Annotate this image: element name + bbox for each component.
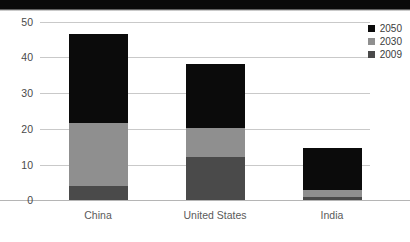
legend-item-2030[interactable]: 2030 bbox=[368, 36, 402, 47]
y-tick-label-20: 20 bbox=[0, 124, 33, 134]
y-tick-label-0: 0 bbox=[0, 195, 33, 205]
y-tick-label-10: 10 bbox=[0, 160, 33, 170]
bar-india[interactable] bbox=[303, 148, 362, 200]
x-axis-label-china: China bbox=[38, 209, 158, 221]
legend-label-2050: 2050 bbox=[380, 24, 402, 34]
legend-swatch-2009-icon bbox=[368, 51, 375, 58]
bar-segment-india-2009[interactable] bbox=[303, 197, 362, 200]
plot-area: 50 40 30 20 10 0 China United States Ind… bbox=[0, 9, 410, 242]
scan-artifact-band bbox=[0, 0, 410, 9]
bar-segment-united-states-2030[interactable] bbox=[186, 128, 245, 157]
legend-label-2009: 2009 bbox=[380, 50, 402, 60]
bar-segment-india-2030[interactable] bbox=[303, 190, 362, 197]
legend-swatch-2050-icon bbox=[368, 25, 375, 32]
x-axis-label-united-states: United States bbox=[155, 209, 275, 221]
bar-segment-india-2050[interactable] bbox=[303, 148, 362, 190]
bar-segment-china-2030[interactable] bbox=[69, 123, 128, 186]
bar-segment-china-2009[interactable] bbox=[69, 186, 128, 200]
bar-segment-united-states-2009[interactable] bbox=[186, 157, 245, 200]
stacked-bar-chart: 50 40 30 20 10 0 China United States Ind… bbox=[0, 0, 410, 242]
bar-china[interactable] bbox=[69, 34, 128, 200]
legend-item-2009[interactable]: 2009 bbox=[368, 49, 402, 60]
y-tick-label-40: 40 bbox=[0, 52, 33, 62]
bar-united-states[interactable] bbox=[186, 64, 245, 200]
legend-item-2050[interactable]: 2050 bbox=[368, 23, 402, 34]
chart-legend: 2050 2030 2009 bbox=[368, 23, 402, 62]
gridline-50 bbox=[40, 22, 370, 23]
x-axis-line bbox=[0, 200, 410, 201]
bar-segment-china-2050[interactable] bbox=[69, 34, 128, 123]
legend-swatch-2030-icon bbox=[368, 38, 375, 45]
y-tick-label-30: 30 bbox=[0, 88, 33, 98]
legend-label-2030: 2030 bbox=[380, 37, 402, 47]
x-axis-label-india: India bbox=[272, 209, 392, 221]
bar-segment-united-states-2050[interactable] bbox=[186, 64, 245, 128]
y-tick-label-50: 50 bbox=[0, 17, 33, 27]
